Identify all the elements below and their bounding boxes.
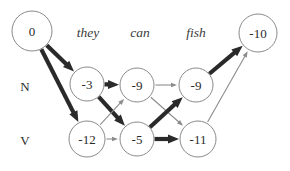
arrowhead-icon [112,137,118,142]
lattice-figure: 0-3-12-9-5-9-11-10 theycanfishNV [0,0,290,171]
word-label-fish: fish [186,25,206,40]
lattice-node-v-fish[interactable]: -11 [180,121,216,157]
node-score-label: -5 [132,132,143,147]
arrowhead-icon [171,83,177,88]
lattice-node-n-fish[interactable]: -9 [179,68,213,102]
lattice-node-n-can[interactable]: -9 [120,68,154,102]
edge-n-they-to-n-can [105,80,120,89]
node-score-label: -9 [132,78,143,93]
edge-line [208,55,246,122]
lattice-node-v-can[interactable]: -5 [120,122,154,156]
row-label-N: N [20,79,30,94]
arrowhead-icon [243,51,248,57]
edge-line [41,49,74,113]
lattice-node-start[interactable]: 0 [12,11,52,51]
word-label-they: they [77,25,100,40]
lattice-node-n-they[interactable]: -3 [70,67,104,101]
edge-v-fish-to-end [208,51,248,122]
lattice-node-end[interactable]: -10 [239,14,277,52]
node-score-label: -3 [82,77,93,92]
edge-v-can-to-v-fish [155,135,180,144]
arrowhead-icon [168,135,179,144]
node-score-label: -10 [249,26,266,41]
node-score-label: -11 [190,132,207,147]
node-score-label: -9 [191,78,202,93]
node-score-label: 0 [29,24,36,39]
arrowhead-icon [108,80,119,89]
row-label-V: V [20,133,30,148]
node-score-label: -12 [78,132,95,147]
edge-line [209,52,235,74]
edge-n-can-to-n-fish [156,83,178,88]
lattice-canvas: 0-3-12-9-5-9-11-10 theycanfishNV [0,0,290,171]
lattice-node-v-they[interactable]: -12 [69,121,105,157]
word-label-can: can [130,25,150,40]
edge-v-they-to-v-can [107,137,119,142]
